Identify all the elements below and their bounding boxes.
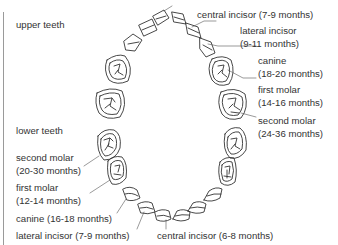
lower-lateral-incisor-label: lateral incisor (7-9 months): [16, 230, 130, 242]
lower-canine-label: canine (16-18 months): [16, 213, 112, 225]
lower-right-teeth: [173, 128, 246, 221]
upper-first-molar-name: first molar: [258, 84, 300, 96]
upper-left-teeth: [96, 10, 169, 118]
upper-central-incisor-label: central incisor (7-9 months): [197, 9, 313, 21]
lower-central-incisor-label: central incisor (6-8 months): [157, 230, 273, 242]
upper-right-teeth: [172, 12, 246, 119]
upper-canine-eruption: (18-20 months): [258, 68, 323, 80]
upper-lateral-incisor-name: lateral incisor: [240, 25, 297, 37]
lower-second-molar-eruption: (20-30 months): [16, 165, 81, 177]
upper-lateral-incisor-eruption: (9-11 months): [240, 38, 299, 50]
lower-first-molar-name: first molar: [16, 182, 58, 194]
lower-first-molar-eruption: (12-14 months): [16, 195, 81, 207]
lower-second-molar-name: second molar: [16, 152, 74, 164]
upper-second-molar-name: second molar: [258, 115, 316, 127]
upper-second-molar-eruption: (24-36 months): [258, 128, 323, 140]
leader-lines: [84, 6, 256, 229]
upper-first-molar-eruption: (14-16 months): [258, 97, 323, 109]
upper-canine-name: canine: [258, 55, 286, 67]
upper-teeth-label: upper teeth: [16, 19, 65, 31]
lower-teeth-label: lower teeth: [16, 125, 63, 137]
lower-left-teeth: [98, 130, 171, 222]
